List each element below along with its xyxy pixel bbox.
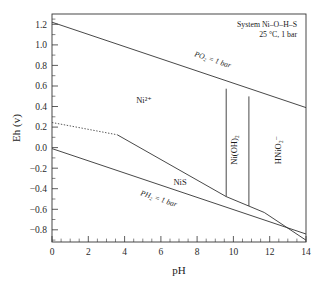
x-tick-label: 4 bbox=[122, 247, 127, 257]
system-caption-line1: System Ni–O–H–S bbox=[237, 20, 297, 29]
plot-frame bbox=[52, 14, 306, 242]
region-label-nis: NiS bbox=[173, 177, 187, 187]
x-axis-title: pH bbox=[172, 264, 186, 276]
y-tick-label: −0.8 bbox=[30, 225, 47, 235]
x-tick-label: 14 bbox=[301, 247, 311, 257]
y-axis-title: Eh (v) bbox=[10, 114, 23, 142]
x-tick-label: 10 bbox=[229, 247, 239, 257]
y-tick-label: 0.6 bbox=[35, 81, 47, 91]
chart-canvas: 1.2 1.0 0.8 0.6 0.4 0.2 0.0 −0.2 −0.4 −0… bbox=[0, 0, 335, 288]
y-tick-label: 1.0 bbox=[35, 40, 47, 50]
y-tick-label: 0.0 bbox=[35, 143, 47, 153]
y-tick-label: 1.2 bbox=[35, 20, 47, 30]
y-tick-labels: 1.2 1.0 0.8 0.6 0.4 0.2 0.0 −0.2 −0.4 −0… bbox=[30, 20, 47, 236]
pourbaix-diagram-figure: 1.2 1.0 0.8 0.6 0.4 0.2 0.0 −0.2 −0.4 −0… bbox=[0, 0, 335, 288]
x-tick-label: 8 bbox=[195, 247, 200, 257]
x-tick-label: 12 bbox=[265, 247, 275, 257]
x-tick-labels: 0 2 4 6 8 10 12 14 bbox=[50, 247, 311, 257]
region-label-hnio2: HNiO₂⁻ bbox=[273, 136, 283, 164]
y-tick-label: −0.6 bbox=[30, 205, 47, 215]
y-tick-label: −0.2 bbox=[30, 164, 47, 174]
system-caption-line2: 25 °C, 1 bar bbox=[259, 30, 297, 39]
region-label-nioh2: Ni(OH)₂ bbox=[229, 135, 239, 164]
y-tick-label: 0.2 bbox=[35, 122, 47, 132]
y-tick-label: 0.8 bbox=[35, 61, 47, 71]
x-tick-label: 2 bbox=[86, 247, 91, 257]
y-tick-label: 0.4 bbox=[35, 102, 47, 112]
region-label-ni2plus: Ni²⁺ bbox=[136, 95, 152, 105]
x-tick-label: 0 bbox=[50, 247, 55, 257]
x-tick-label: 6 bbox=[159, 247, 164, 257]
y-tick-label: −0.4 bbox=[30, 184, 47, 194]
